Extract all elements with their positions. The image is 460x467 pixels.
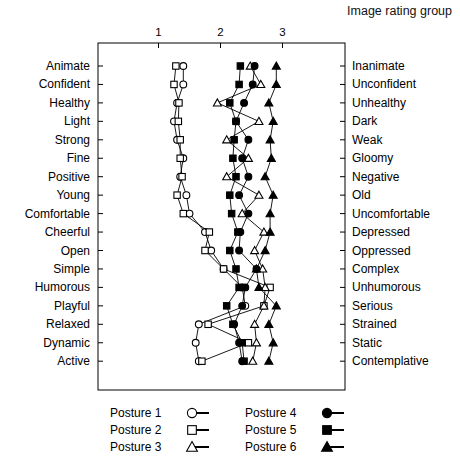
data-point-open-circle (192, 339, 199, 346)
data-point-filled-square (237, 63, 243, 69)
data-point-filled-square (241, 358, 247, 364)
semantic-differential-chart: Image rating group 123 AnimateConfidentH… (0, 0, 460, 467)
data-point-open-square (177, 155, 183, 161)
data-point-open-triangle (249, 357, 257, 364)
legend-item: Posture 3 (110, 438, 260, 455)
data-point-filled-triangle (266, 228, 274, 235)
data-point-open-square (180, 210, 186, 216)
data-point-open-triangle (255, 117, 263, 124)
legend-marker-filled-circle (317, 405, 351, 421)
data-point-open-triangle (251, 320, 259, 327)
data-point-open-circle (187, 408, 196, 417)
data-point-filled-square (227, 100, 233, 106)
data-point-filled-square (231, 137, 237, 143)
series-layer (171, 62, 281, 365)
series-posture-6 (252, 62, 280, 364)
data-point-filled-square (236, 81, 242, 87)
legend-column-right: Posture 4Posture 5Posture 6 (245, 404, 395, 455)
data-point-filled-circle (242, 284, 249, 291)
data-point-filled-square (227, 247, 233, 253)
data-point-filled-square (239, 340, 245, 346)
data-point-open-square (205, 321, 211, 327)
data-point-filled-square (233, 174, 239, 180)
data-point-open-circle (195, 321, 202, 328)
plot-area (0, 0, 460, 467)
legend-marker-open-circle (182, 405, 216, 421)
data-point-filled-triangle (272, 62, 280, 69)
data-point-filled-circle (245, 210, 252, 217)
data-point-open-square (206, 229, 212, 235)
legend-label: Posture 6 (245, 440, 317, 454)
legend-label: Posture 4 (245, 406, 317, 420)
data-point-open-square (171, 81, 177, 87)
data-point-open-triangle (255, 191, 263, 198)
data-point-filled-circle (245, 173, 252, 180)
data-point-filled-triangle (272, 80, 280, 87)
legend-label: Posture 5 (245, 423, 317, 437)
data-point-filled-square (230, 321, 236, 327)
data-point-filled-triangle (261, 173, 269, 180)
data-point-open-square (176, 100, 182, 106)
data-point-filled-square (228, 210, 234, 216)
legend-label: Posture 2 (110, 423, 182, 437)
data-point-filled-circle (249, 81, 256, 88)
data-point-open-circle (180, 63, 187, 70)
data-point-filled-circle (239, 155, 246, 162)
data-point-open-circle (180, 81, 187, 88)
legend-marker-open-triangle (182, 439, 216, 455)
data-point-open-triangle (251, 247, 259, 254)
series-posture-3 (213, 62, 269, 364)
data-point-filled-square (230, 155, 236, 161)
legend-item: Posture 6 (245, 438, 395, 455)
data-point-filled-circle (251, 63, 258, 70)
data-point-filled-triangle (269, 117, 277, 124)
data-point-filled-circle (236, 192, 243, 199)
legend-label: Posture 3 (110, 440, 182, 454)
data-point-open-triangle (213, 99, 221, 106)
data-point-open-circle (183, 192, 190, 199)
data-point-filled-triangle (265, 357, 273, 364)
legend-item: Posture 2 (110, 421, 260, 438)
data-point-open-square (174, 192, 180, 198)
data-point-filled-square (227, 192, 233, 198)
data-point-filled-square (235, 229, 241, 235)
data-point-open-square (245, 340, 251, 346)
series-line (256, 66, 276, 361)
axis-frame (98, 43, 345, 390)
data-point-filled-triangle (265, 320, 273, 327)
data-point-filled-circle (239, 302, 246, 309)
data-point-open-triangle (257, 80, 265, 87)
data-point-open-triangle (252, 339, 260, 346)
legend-label: Posture 1 (110, 406, 182, 420)
legend-item: Posture 1 (110, 404, 260, 421)
data-point-open-square (173, 63, 179, 69)
series-posture-2 (171, 63, 273, 365)
data-point-filled-square (233, 118, 239, 124)
data-point-filled-circle (241, 100, 248, 107)
data-point-filled-triangle (267, 154, 275, 161)
data-point-filled-triangle (269, 339, 277, 346)
data-point-open-triangle (223, 136, 231, 143)
data-point-open-square (177, 137, 183, 143)
data-point-filled-circle (245, 136, 252, 143)
data-point-open-square (199, 358, 205, 364)
data-point-open-square (188, 425, 197, 434)
data-point-filled-triangle (265, 99, 273, 106)
data-point-filled-circle (322, 408, 331, 417)
data-point-filled-square (236, 284, 242, 290)
data-point-open-square (179, 174, 185, 180)
data-point-filled-triangle (266, 210, 274, 217)
data-point-open-square (202, 247, 208, 253)
data-point-filled-triangle (266, 136, 274, 143)
data-point-filled-circle (236, 247, 243, 254)
data-point-filled-square (224, 303, 230, 309)
legend-marker-filled-triangle (317, 439, 351, 455)
data-point-filled-square (233, 266, 239, 272)
legend: Posture 1Posture 2Posture 3 Posture 4Pos… (110, 404, 410, 460)
data-point-filled-triangle (261, 247, 269, 254)
data-point-filled-square (323, 425, 332, 434)
data-point-open-square (220, 266, 226, 272)
data-point-filled-triangle (269, 191, 277, 198)
legend-column-left: Posture 1Posture 2Posture 3 (110, 404, 260, 455)
data-point-open-circle (208, 247, 215, 254)
